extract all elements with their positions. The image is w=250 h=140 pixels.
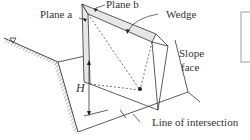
cropped-inset-box [241, 12, 250, 62]
height-dimension: H [75, 60, 108, 116]
slope-face-label-1: Slope [179, 47, 204, 59]
height-label: H [75, 81, 86, 95]
slope-face-label-2: face [181, 61, 199, 73]
intersection-point-icon [138, 87, 142, 91]
wedge-diagram: H Plane a Plane b Wedge Slope face Line … [0, 0, 250, 140]
ground-surface [4, 38, 58, 66]
plane-b-label: Plane b [106, 0, 139, 10]
line-of-intersection-label: Line of intersection [152, 116, 239, 128]
plane-a-label: Plane a [40, 8, 72, 20]
wedge-label: Wedge [166, 8, 196, 20]
